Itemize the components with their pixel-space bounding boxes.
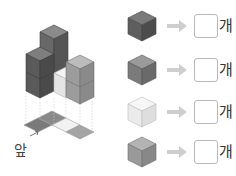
unit-label: 개 [219,19,233,34]
count-row-medium: 개 [124,52,233,88]
dark-cube-icon [124,8,160,44]
arrow-right-icon [166,105,188,119]
count-row-light: 개 [124,134,233,170]
cube-column-light [66,55,94,104]
answer-box-light[interactable] [194,140,218,164]
arrow-right-icon [166,19,188,33]
light-cube-icon [124,134,160,170]
arrow-right-icon [166,145,188,159]
unit-label: 개 [219,105,233,120]
arrow-right-icon [166,63,188,77]
count-row-dark: 개 [124,8,233,44]
front-label: 앞 [14,139,27,159]
answer-box-white[interactable] [194,100,218,124]
unit-label: 개 [219,63,233,78]
white-cube-icon [124,94,160,130]
unit-label: 개 [219,145,233,160]
floor-plan [24,111,94,139]
medium-cube-icon [124,52,160,88]
cube-column-front-dark [26,47,54,98]
count-row-white: 개 [124,94,233,130]
answer-box-dark[interactable] [194,14,218,38]
front-arrow [30,131,38,136]
answer-box-medium[interactable] [194,58,218,82]
